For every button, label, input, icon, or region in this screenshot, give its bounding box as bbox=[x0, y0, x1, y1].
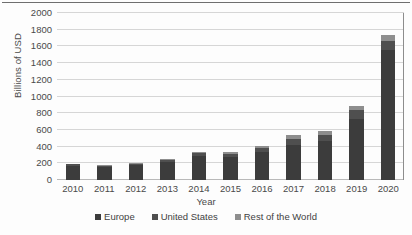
y-tick-label: 200 bbox=[36, 157, 52, 168]
bar-segment[interactable] bbox=[97, 167, 112, 180]
legend-item[interactable]: Europe bbox=[95, 211, 135, 222]
legend-swatch-icon bbox=[235, 214, 241, 220]
chart-legend: EuropeUnited StatesRest of the World bbox=[0, 211, 412, 222]
bar-slot[interactable]: 2013 bbox=[152, 13, 184, 180]
y-tick-label: 0 bbox=[47, 174, 52, 185]
bar-stack[interactable] bbox=[349, 106, 364, 180]
bar-stack[interactable] bbox=[286, 135, 301, 180]
x-tick-label: 2015 bbox=[215, 183, 247, 194]
bar-slot[interactable]: 2011 bbox=[89, 13, 121, 180]
x-axis-title: Year bbox=[0, 196, 412, 207]
y-tick-label: 1000 bbox=[31, 90, 52, 101]
y-tick-label: 1200 bbox=[31, 73, 52, 84]
bar-segment[interactable] bbox=[349, 110, 364, 119]
x-tick-label: 2014 bbox=[183, 183, 215, 194]
legend-item[interactable]: Rest of the World bbox=[235, 211, 317, 222]
top-divider bbox=[2, 2, 410, 3]
bar-slot[interactable]: 2016 bbox=[246, 13, 278, 180]
bar-segment[interactable] bbox=[255, 152, 270, 180]
y-tick-label: 1400 bbox=[31, 57, 52, 68]
bar-slot[interactable]: 2015 bbox=[215, 13, 247, 180]
bar-slot[interactable]: 2017 bbox=[278, 13, 310, 180]
bar-stack[interactable] bbox=[318, 131, 333, 180]
bar-segment[interactable] bbox=[349, 119, 364, 180]
bar-stack[interactable] bbox=[129, 163, 144, 180]
legend-label: Rest of the World bbox=[244, 211, 317, 222]
y-tick-label: 2000 bbox=[31, 7, 52, 18]
x-tick-label: 2013 bbox=[152, 183, 184, 194]
legend-label: Europe bbox=[104, 211, 135, 222]
x-tick-label: 2012 bbox=[120, 183, 152, 194]
bar-slot[interactable]: 2018 bbox=[309, 13, 341, 180]
y-tick-label: 1800 bbox=[31, 23, 52, 34]
y-tick-label: 600 bbox=[36, 123, 52, 134]
bar-segment[interactable] bbox=[286, 145, 301, 180]
bar-slot[interactable]: 2012 bbox=[120, 13, 152, 180]
x-tick-label: 2017 bbox=[278, 183, 310, 194]
bar-stack[interactable] bbox=[255, 146, 270, 180]
x-tick-label: 2011 bbox=[89, 183, 121, 194]
plot-area: 0200400600800100012001400160018002000 20… bbox=[57, 13, 404, 180]
legend-label: United States bbox=[161, 211, 218, 222]
bar-segment[interactable] bbox=[129, 165, 144, 180]
bar-stack[interactable] bbox=[381, 35, 396, 180]
bar-segment[interactable] bbox=[160, 162, 175, 180]
bar-stack[interactable] bbox=[97, 165, 112, 180]
legend-swatch-icon bbox=[95, 214, 101, 220]
bar-stack[interactable] bbox=[66, 164, 81, 180]
x-tick-label: 2020 bbox=[372, 183, 404, 194]
bar-segment[interactable] bbox=[318, 141, 333, 180]
y-axis-title: Billions of USD bbox=[12, 11, 23, 121]
x-tick-label: 2010 bbox=[57, 183, 89, 194]
y-tick-label: 1600 bbox=[31, 40, 52, 51]
stacked-bar-chart: Billions of USD 020040060080010001200140… bbox=[0, 0, 412, 235]
y-tick-label: 400 bbox=[36, 140, 52, 151]
y-tick-label: 800 bbox=[36, 107, 52, 118]
legend-swatch-icon bbox=[152, 214, 158, 220]
bar-slot[interactable]: 2020 bbox=[372, 13, 404, 180]
bar-stack[interactable] bbox=[160, 159, 175, 180]
bar-group: 2010201120122013201420152016201720182019… bbox=[57, 13, 404, 180]
bar-slot[interactable]: 2014 bbox=[183, 13, 215, 180]
x-tick-label: 2019 bbox=[341, 183, 373, 194]
bar-slot[interactable]: 2010 bbox=[57, 13, 89, 180]
x-tick-label: 2018 bbox=[309, 183, 341, 194]
bar-stack[interactable] bbox=[192, 152, 207, 180]
legend-item[interactable]: United States bbox=[152, 211, 218, 222]
bar-segment[interactable] bbox=[66, 166, 81, 180]
x-tick-label: 2016 bbox=[246, 183, 278, 194]
bar-segment[interactable] bbox=[381, 41, 396, 50]
bar-segment[interactable] bbox=[223, 157, 238, 180]
bar-stack[interactable] bbox=[223, 152, 238, 180]
bar-slot[interactable]: 2019 bbox=[341, 13, 373, 180]
bar-segment[interactable] bbox=[381, 50, 396, 180]
bar-segment[interactable] bbox=[192, 156, 207, 180]
